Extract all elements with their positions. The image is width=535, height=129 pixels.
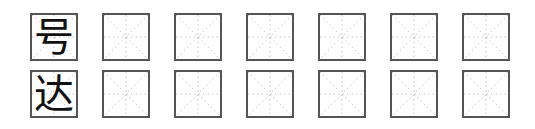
model-character: 号 xyxy=(32,15,76,59)
model-character-cell: 号 xyxy=(30,13,78,61)
practice-cell[interactable] xyxy=(102,13,150,61)
practice-cell[interactable] xyxy=(246,70,294,118)
mi-grid-guide-icon xyxy=(104,15,148,59)
practice-cell[interactable] xyxy=(462,70,510,118)
mi-grid-guide-icon xyxy=(248,72,292,116)
mi-grid-guide-icon xyxy=(176,72,220,116)
practice-cell[interactable] xyxy=(174,13,222,61)
practice-cell[interactable] xyxy=(462,13,510,61)
mi-grid-guide-icon xyxy=(320,15,364,59)
practice-row-2: 达 xyxy=(30,70,510,119)
mi-grid-guide-icon xyxy=(392,15,436,59)
practice-cell[interactable] xyxy=(318,70,366,118)
practice-cell[interactable] xyxy=(174,70,222,118)
mi-grid-guide-icon xyxy=(464,15,508,59)
model-character-cell: 达 xyxy=(30,70,78,118)
mi-grid-guide-icon xyxy=(464,72,508,116)
model-character: 达 xyxy=(32,72,76,116)
mi-grid-guide-icon xyxy=(248,15,292,59)
mi-grid-guide-icon xyxy=(176,15,220,59)
practice-cell[interactable] xyxy=(102,70,150,118)
practice-cell[interactable] xyxy=(390,70,438,118)
practice-cell[interactable] xyxy=(318,13,366,61)
mi-grid-guide-icon xyxy=(392,72,436,116)
practice-cell[interactable] xyxy=(246,13,294,61)
mi-grid-guide-icon xyxy=(104,72,148,116)
practice-cell[interactable] xyxy=(390,13,438,61)
practice-row-1: 号 xyxy=(30,13,510,62)
mi-grid-guide-icon xyxy=(320,72,364,116)
